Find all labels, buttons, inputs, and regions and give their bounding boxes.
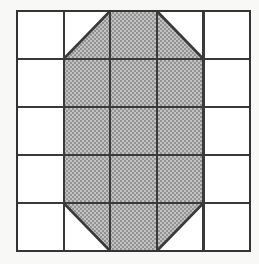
figure-container bbox=[0, 0, 259, 264]
shaded-octagon-grid-figure bbox=[0, 0, 259, 264]
shaded-octagon-region bbox=[64, 11, 204, 251]
cell-c3r5-full bbox=[110, 203, 157, 251]
cell-c3r1-full bbox=[110, 11, 157, 59]
cells-c2to4-r2to4-full-block bbox=[64, 59, 204, 203]
